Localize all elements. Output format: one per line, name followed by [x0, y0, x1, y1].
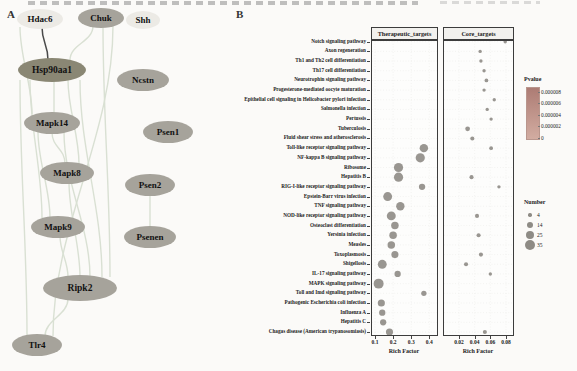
pathway-label: Ribosome — [230, 165, 366, 170]
y-tick — [367, 293, 370, 294]
network-node-label: Ncstn — [132, 75, 154, 85]
y-tick — [367, 109, 370, 110]
number-legend-dot — [525, 240, 535, 250]
network-edge — [42, 27, 48, 60]
pvalue-tick — [538, 115, 540, 116]
y-tick — [367, 80, 370, 81]
pvalue-tick-label: 0.000002 — [541, 123, 561, 129]
pathway-label: Toll and Imd signaling pathway — [230, 291, 366, 296]
pvalue-tick-label: 0 — [541, 135, 544, 141]
figure: A Hdac6ChukShhHsp90aa1NcstnMapk14Psen1Ma… — [0, 0, 577, 371]
panel-b-label: B — [236, 8, 243, 20]
y-tick — [367, 177, 370, 178]
pathway-label: Notch signaling pathway — [230, 39, 366, 44]
pvalue-tick — [538, 126, 540, 127]
network-edge — [64, 132, 90, 277]
number-legend-label: 14 — [537, 222, 543, 228]
data-point — [420, 144, 428, 152]
y-tick — [367, 158, 370, 159]
data-point — [416, 153, 425, 162]
data-point — [489, 146, 493, 150]
data-point — [504, 41, 507, 43]
data-point — [464, 262, 468, 266]
cropped-text-strip-2 — [440, 1, 540, 4]
pvalue-legend-title: Pvalue — [524, 76, 541, 82]
network-graph: Hdac6ChukShhHsp90aa1NcstnMapk14Psen1Mapk… — [0, 0, 232, 371]
data-point — [489, 117, 492, 120]
pathway-label: Th17 cell differentiation — [230, 68, 366, 73]
pathway-label: Yersinia infection — [230, 233, 366, 238]
number-legend-label: 4 — [537, 212, 540, 218]
y-tick — [367, 138, 370, 139]
pathway-label: Tuberculosis — [230, 126, 366, 131]
pathway-label: Toxoplasmosis — [230, 252, 366, 257]
pathway-label: Epstein-Barr virus infection — [230, 194, 366, 199]
network-edge — [103, 26, 110, 277]
x-tick-label: 0.1 — [365, 339, 385, 345]
data-point — [479, 59, 482, 62]
data-point — [478, 50, 481, 53]
facet-plot-area — [372, 41, 437, 335]
facet-panel-core — [443, 40, 514, 336]
facet-panel-therapeutic — [371, 40, 438, 336]
y-tick — [367, 274, 370, 275]
pathway-label: Fluid shear stress and atherosclerosis — [230, 136, 366, 141]
y-tick — [367, 303, 370, 304]
y-tick — [367, 100, 370, 101]
data-point — [489, 272, 492, 275]
network-node-label: Ripk2 — [68, 283, 93, 293]
pathway-label: NOD-like receptor signaling pathway — [230, 213, 366, 218]
facet-plot-area — [444, 41, 513, 335]
data-point — [394, 163, 403, 172]
number-legend-label: 35 — [537, 242, 543, 248]
data-point — [475, 214, 479, 218]
data-point — [479, 253, 483, 257]
facet-header-core: Core_targets — [443, 27, 514, 40]
data-point — [493, 98, 496, 101]
pathway-label: Salmonella infection — [230, 107, 366, 112]
data-point — [388, 241, 396, 249]
data-point — [394, 173, 403, 182]
data-point — [378, 260, 387, 269]
network-node-label: Chuk — [90, 13, 112, 23]
y-tick — [367, 216, 370, 217]
network-node-label: Shh — [135, 15, 150, 25]
number-legend-label: 25 — [537, 232, 543, 238]
pathway-label: Measles — [230, 242, 366, 247]
x-tick-label: 0.4 — [419, 339, 439, 345]
y-tick — [367, 284, 370, 285]
network-edge — [52, 132, 65, 164]
x-axis-title-therapeutic: Rich Factor — [379, 348, 429, 354]
network-node-label: Mapk9 — [44, 222, 72, 232]
pathway-label: Chagas disease (American trypanosomiasis… — [230, 329, 366, 334]
number-legend-title: Number — [524, 199, 545, 205]
pathway-label: Pertussis — [230, 117, 366, 122]
pathway-label: Toll-like receptor signaling pathway — [230, 146, 366, 151]
pathway-label: Hepatitis C — [230, 320, 366, 325]
network-edge — [45, 299, 68, 336]
y-tick — [367, 332, 370, 333]
data-point — [485, 79, 489, 83]
y-tick — [367, 90, 370, 91]
network-node-label: Mapk8 — [53, 168, 81, 178]
facet-header-therapeutic: Therapeutic_targets — [371, 27, 438, 40]
data-point — [477, 233, 481, 237]
data-point — [380, 319, 386, 325]
pvalue-tick — [538, 138, 540, 139]
network-node-label: Tlr4 — [29, 340, 46, 350]
pvalue-tick — [538, 103, 540, 104]
x-tick-label: 0.08 — [496, 339, 516, 345]
data-point — [419, 184, 425, 190]
pathway-label: Influenza A — [230, 310, 366, 315]
data-point — [391, 251, 398, 258]
network-edge — [60, 236, 68, 277]
y-tick — [367, 51, 370, 52]
number-legend-dot — [528, 213, 531, 216]
data-point — [394, 271, 400, 277]
pvalue-tick-label: 0.000008 — [541, 89, 561, 95]
data-point — [379, 310, 385, 316]
y-tick — [367, 235, 370, 236]
pathway-label: Hepatitis B — [230, 175, 366, 180]
data-point — [483, 330, 487, 334]
network-node-label: Hdac6 — [27, 14, 53, 24]
